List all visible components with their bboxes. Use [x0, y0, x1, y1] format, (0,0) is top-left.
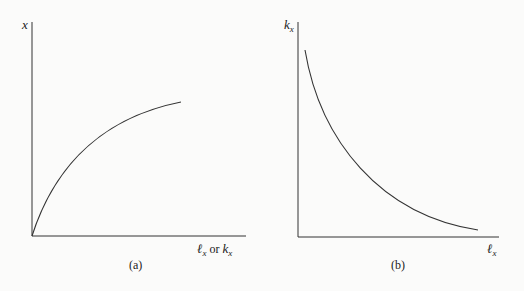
panel-a-curve — [32, 102, 181, 236]
panel-b-curve — [305, 50, 478, 230]
panel-b-caption: (b) — [391, 258, 405, 273]
x-label-or: or — [206, 242, 222, 256]
diagram-canvas — [0, 0, 524, 291]
x-label-sub: x — [202, 248, 206, 258]
panel-b-x-label: ℓx — [487, 241, 496, 257]
y-label-k: k — [284, 17, 290, 32]
panel-a-y-label: x — [22, 17, 28, 33]
panel-b-y-label: kx — [284, 17, 294, 33]
panel-a-caption: (a) — [129, 258, 142, 273]
x-label-sub: x — [228, 248, 232, 258]
panel-a-x-label: ℓx or kx — [197, 241, 232, 257]
y-label-sub: x — [290, 24, 294, 34]
x-label-sub: x — [492, 248, 496, 258]
